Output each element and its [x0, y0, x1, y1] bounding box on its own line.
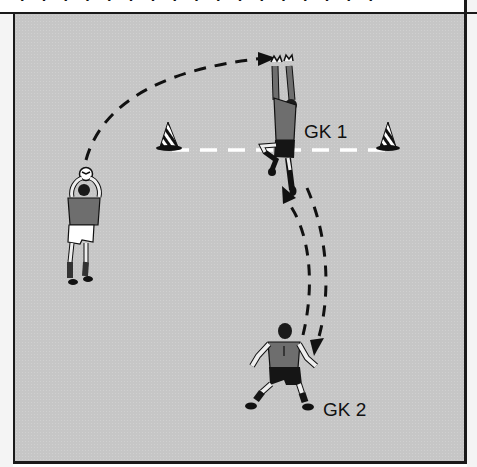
drill-diagram — [0, 0, 477, 467]
thrower-player-figure — [68, 168, 100, 286]
goalkeeper-2-figure — [245, 323, 316, 411]
gk2-label: GK 2 — [323, 400, 366, 419]
right-cone-icon — [376, 122, 400, 151]
gk2-to-gk1-path — [282, 186, 309, 335]
left-cone-icon — [156, 122, 182, 151]
arrowhead-icon — [310, 338, 324, 356]
throw-arc-path — [86, 52, 276, 160]
goalkeeper-1-figure — [262, 55, 297, 196]
gk1-label: GK 1 — [304, 122, 347, 141]
